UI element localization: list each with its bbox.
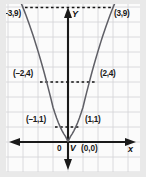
origin-label: 0 (57, 145, 62, 153)
vertex-marker-label: V (70, 144, 76, 153)
x-axis-label: x (128, 145, 133, 154)
y-axis-arrow-down (64, 159, 72, 170)
point-label-3-9: (3,9) (114, 10, 130, 18)
vertex-coordinates-label: (0,0) (81, 145, 98, 153)
x-axis-arrow-left (9, 138, 20, 146)
point-label-neg1-1: (–1,1) (26, 116, 46, 124)
y-axis-arrow-up (64, 7, 72, 18)
point-label-2-4: (2,4) (100, 70, 116, 78)
graph-canvas: (–3,9) (3,9) (–2,4) (2,4) (–1,1) (1,1) 0… (6, 4, 140, 172)
y-axis-label: Y (72, 10, 78, 19)
point-label-neg3-9: (–3,9) (6, 10, 21, 18)
parabola-figure: (–3,9) (3,9) (–2,4) (2,4) (–1,1) (1,1) 0… (0, 0, 146, 177)
point-label-neg2-4: (–2,4) (13, 70, 33, 78)
point-label-1-1: (1,1) (85, 116, 101, 124)
